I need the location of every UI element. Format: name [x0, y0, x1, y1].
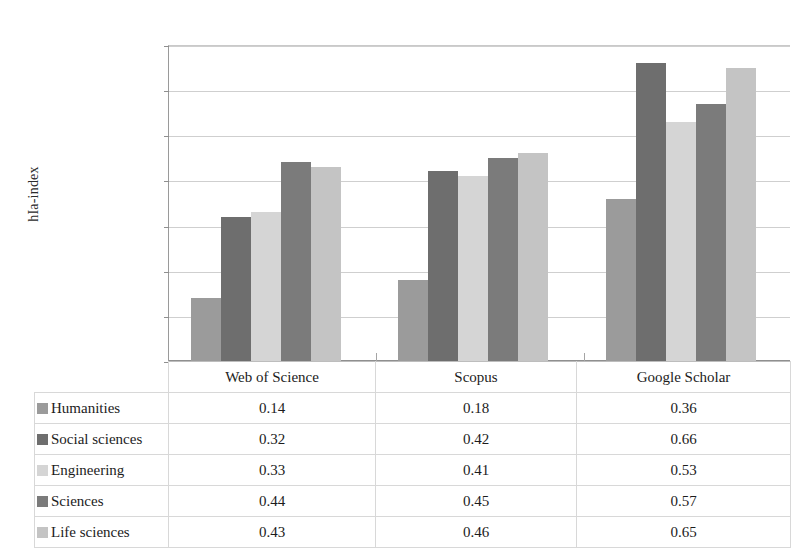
- table-corner-cell: [35, 362, 169, 393]
- gridline: [169, 46, 790, 47]
- table-value-cell: 0.43: [169, 517, 376, 548]
- legend-label: Social sciences: [51, 431, 142, 447]
- gridline: [169, 91, 790, 92]
- bar: [726, 68, 756, 361]
- chart-data-table: Web of ScienceScopusGoogle ScholarHumani…: [34, 361, 791, 548]
- bar: [251, 212, 281, 361]
- legend-label: Engineering: [51, 462, 124, 478]
- group-separator: [376, 353, 377, 361]
- y-tick-mark: [164, 91, 169, 92]
- bar: [666, 122, 696, 361]
- table-value-cell: 0.14: [169, 393, 376, 424]
- bar: [221, 217, 251, 361]
- chart-figure: hIa-index 0.700.600.500.400.300.200.100.…: [0, 0, 807, 557]
- table-row: Life sciences0.430.460.65: [35, 517, 791, 548]
- table-value-cell: 0.45: [376, 486, 577, 517]
- legend-label: Life sciences: [51, 524, 130, 540]
- table-value-cell: 0.33: [169, 455, 376, 486]
- bar: [606, 199, 636, 362]
- table-row: Engineering0.330.410.53: [35, 455, 791, 486]
- table-header-row: Web of ScienceScopusGoogle Scholar: [35, 362, 791, 393]
- legend-cell: Humanities: [35, 393, 169, 424]
- table-value-cell: 0.32: [169, 424, 376, 455]
- table-row: Sciences0.440.450.57: [35, 486, 791, 517]
- legend-swatch-icon: [37, 527, 48, 538]
- table-column-header: Scopus: [376, 362, 577, 393]
- table-value-cell: 0.41: [376, 455, 577, 486]
- legend-label: Sciences: [51, 493, 103, 509]
- table-column-header: Google Scholar: [577, 362, 791, 393]
- bar: [281, 162, 311, 361]
- legend-swatch-icon: [37, 496, 48, 507]
- table-value-cell: 0.44: [169, 486, 376, 517]
- table-value-cell: 0.53: [577, 455, 791, 486]
- legend-cell: Engineering: [35, 455, 169, 486]
- table-value-cell: 0.65: [577, 517, 791, 548]
- legend-swatch-icon: [37, 403, 48, 414]
- bar: [311, 167, 341, 361]
- bar: [636, 63, 666, 361]
- table-value-cell: 0.46: [376, 517, 577, 548]
- y-axis-title: hIa-index: [26, 134, 42, 254]
- bar: [428, 171, 458, 361]
- table-value-cell: 0.42: [376, 424, 577, 455]
- y-tick-mark: [164, 272, 169, 273]
- y-tick-mark: [164, 227, 169, 228]
- table-column-header: Web of Science: [169, 362, 376, 393]
- group-separator: [584, 353, 585, 361]
- legend-cell: Social sciences: [35, 424, 169, 455]
- bar: [458, 176, 488, 361]
- bar: [191, 298, 221, 361]
- y-tick-mark: [164, 136, 169, 137]
- table-value-cell: 0.57: [577, 486, 791, 517]
- y-tick-mark: [164, 317, 169, 318]
- bar: [518, 153, 548, 361]
- y-tick-mark: [164, 181, 169, 182]
- table-value-cell: 0.18: [376, 393, 577, 424]
- bar: [398, 280, 428, 361]
- legend-swatch-icon: [37, 434, 48, 445]
- bar: [488, 158, 518, 361]
- plot-area: 0.700.600.500.400.300.200.100.0: [168, 45, 790, 361]
- legend-label: Humanities: [51, 400, 120, 416]
- table-value-cell: 0.66: [577, 424, 791, 455]
- table-row: Social sciences0.320.420.66: [35, 424, 791, 455]
- table-value-cell: 0.36: [577, 393, 791, 424]
- y-tick-mark: [164, 46, 169, 47]
- table-row: Humanities0.140.180.36: [35, 393, 791, 424]
- legend-cell: Sciences: [35, 486, 169, 517]
- legend-swatch-icon: [37, 465, 48, 476]
- bar: [696, 104, 726, 361]
- legend-cell: Life sciences: [35, 517, 169, 548]
